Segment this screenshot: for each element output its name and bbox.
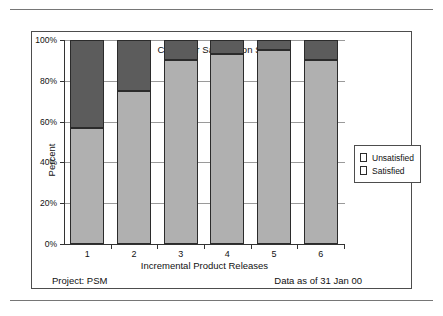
plot-area: 0%20%40%60%80%100% 123456 — [64, 40, 344, 244]
bar-4 — [210, 40, 244, 244]
chart-legend: Unsatisfied Satisfied — [354, 145, 421, 183]
y-tick-label: 80% — [40, 76, 57, 86]
y-tick-label: 60% — [40, 117, 57, 127]
bar-segment-satisfied — [210, 54, 244, 244]
bar-6 — [304, 40, 338, 244]
y-tick-mark — [60, 203, 65, 204]
x-tick-label: 5 — [271, 249, 276, 259]
y-axis-line — [64, 40, 65, 244]
y-tick-mark — [60, 81, 65, 82]
bar-segment-unsatisfied — [257, 40, 291, 50]
y-tick-label: 20% — [40, 198, 57, 208]
y-tick-mark — [60, 40, 65, 41]
x-tick-mark — [204, 244, 205, 249]
x-tick-mark — [157, 244, 158, 249]
bar-2 — [117, 40, 151, 244]
y-tick-mark — [60, 244, 65, 245]
bar-segment-satisfied — [304, 60, 338, 244]
x-tick-label: 2 — [131, 249, 136, 259]
x-axis-title: Incremental Product Releases — [64, 260, 345, 271]
chart-figure: Customer Satisfaction Survey Percent 0%2… — [31, 31, 412, 289]
y-tick-mark — [60, 162, 65, 163]
data-date-caption: Data as of 31 Jan 00 — [274, 275, 362, 286]
chart-footer: Project: PSM Data as of 31 Jan 00 — [52, 275, 362, 286]
bar-segment-satisfied — [70, 128, 104, 244]
x-tick-mark — [111, 244, 112, 249]
legend-label-satisfied: Satisfied — [372, 166, 405, 176]
page-rule-bottom — [10, 300, 433, 301]
legend-label-unsatisfied: Unsatisfied — [372, 153, 414, 163]
legend-item-unsatisfied: Unsatisfied — [360, 151, 414, 164]
bar-segment-unsatisfied — [304, 40, 338, 60]
y-tick-mark — [60, 122, 65, 123]
bar-segment-unsatisfied — [70, 40, 104, 128]
bar-segment-satisfied — [164, 60, 198, 244]
y-tick-label: 40% — [40, 157, 57, 167]
x-tick-mark — [297, 244, 298, 249]
y-tick-label: 100% — [35, 35, 57, 45]
bar-segment-satisfied — [257, 50, 291, 244]
bar-3 — [164, 40, 198, 244]
bar-5 — [257, 40, 291, 244]
bar-segment-satisfied — [117, 91, 151, 244]
bar-segment-unsatisfied — [164, 40, 198, 60]
x-tick-label: 3 — [178, 249, 183, 259]
x-tick-label: 4 — [225, 249, 230, 259]
y-tick-label: 0% — [45, 239, 57, 249]
bar-segment-unsatisfied — [117, 40, 151, 91]
bar-1 — [70, 40, 104, 244]
legend-swatch-satisfied — [360, 166, 367, 175]
legend-swatch-unsatisfied — [360, 153, 367, 162]
page-rule-top — [10, 9, 433, 10]
project-caption: Project: PSM — [52, 275, 107, 286]
legend-item-satisfied: Satisfied — [360, 164, 414, 177]
bar-segment-unsatisfied — [210, 40, 244, 54]
x-tick-mark — [251, 244, 252, 249]
x-tick-label: 6 — [318, 249, 323, 259]
x-tick-mark — [344, 244, 345, 249]
x-tick-label: 1 — [85, 249, 90, 259]
